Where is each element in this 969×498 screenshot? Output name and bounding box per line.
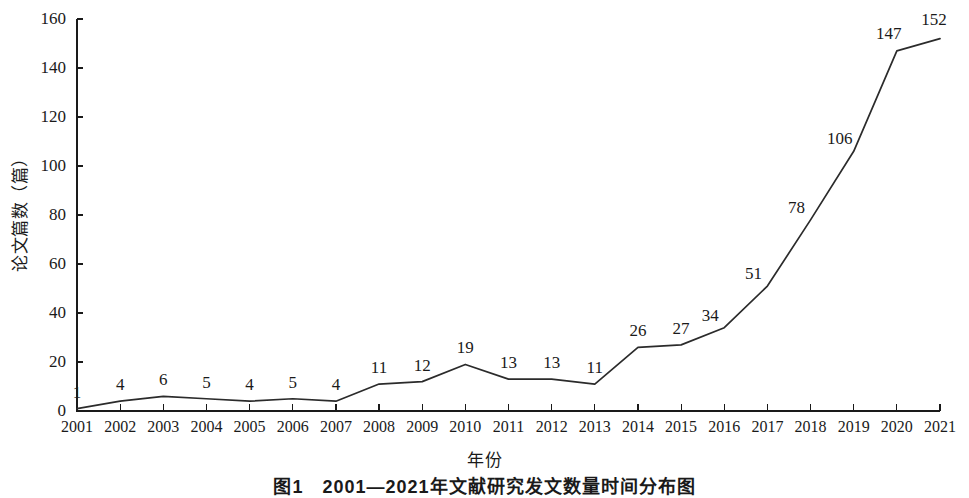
data-point-label: 51 (745, 264, 762, 283)
data-point-labels: 14654541112191313112627345178106147152 (73, 10, 947, 402)
data-point-label: 27 (673, 319, 691, 338)
x-tick-label: 2020 (881, 418, 913, 435)
data-point-label: 13 (543, 353, 560, 372)
x-tick-label: 2019 (838, 418, 870, 435)
x-tick-label: 2009 (406, 418, 438, 435)
data-point-label: 19 (457, 338, 474, 357)
x-tick-label: 2005 (234, 418, 266, 435)
data-point-label: 26 (629, 321, 646, 340)
x-tick-label: 2016 (708, 418, 740, 435)
y-tick-label: 20 (49, 352, 66, 371)
x-tick-label: 2010 (449, 418, 481, 435)
data-point-label: 4 (245, 375, 254, 394)
data-point-label: 34 (702, 306, 720, 325)
y-tick-label: 120 (41, 107, 67, 126)
x-axis-title: 年份 (0, 446, 969, 471)
x-tick-label: 2015 (665, 418, 697, 435)
figure-caption: 图1 2001—2021年文献研究发文数量时间分布图 (0, 472, 969, 498)
x-tick-label: 2013 (579, 418, 611, 435)
x-tick-label: 2007 (320, 418, 352, 435)
data-point-label: 1 (73, 383, 82, 402)
data-point-label: 4 (332, 375, 341, 394)
data-point-label: 152 (921, 10, 947, 29)
y-tick-label: 100 (41, 156, 67, 175)
y-tick-label: 60 (49, 254, 66, 273)
y-tick-label: 160 (41, 9, 67, 28)
x-tick-label: 2018 (795, 418, 827, 435)
x-tick-label: 2006 (277, 418, 309, 435)
x-tick-label: 2011 (493, 418, 524, 435)
data-point-label: 5 (202, 373, 211, 392)
x-axis-ticks: 2001200220032004200520062007200820092010… (61, 404, 956, 435)
data-point-label: 13 (500, 353, 517, 372)
data-point-label: 11 (371, 358, 387, 377)
x-tick-label: 2004 (190, 418, 222, 435)
y-tick-label: 140 (41, 58, 67, 77)
y-tick-label: 0 (58, 401, 67, 420)
data-point-label: 6 (159, 370, 168, 389)
data-point-label: 78 (788, 198, 805, 217)
x-tick-label: 2017 (751, 418, 783, 435)
x-tick-label: 2001 (61, 418, 93, 435)
data-point-label: 12 (414, 356, 431, 375)
x-tick-label: 2021 (924, 418, 956, 435)
data-point-label: 4 (116, 375, 125, 394)
data-point-label: 11 (587, 358, 603, 377)
x-tick-label: 2012 (536, 418, 568, 435)
y-tick-label: 80 (49, 205, 66, 224)
x-tick-label: 2008 (363, 418, 395, 435)
x-tick-label: 2002 (104, 418, 136, 435)
x-tick-label: 2003 (147, 418, 179, 435)
y-tick-label: 40 (49, 303, 66, 322)
data-point-label: 106 (827, 129, 853, 148)
data-point-label: 147 (876, 24, 902, 43)
data-point-label: 5 (289, 373, 298, 392)
x-tick-label: 2014 (622, 418, 654, 435)
